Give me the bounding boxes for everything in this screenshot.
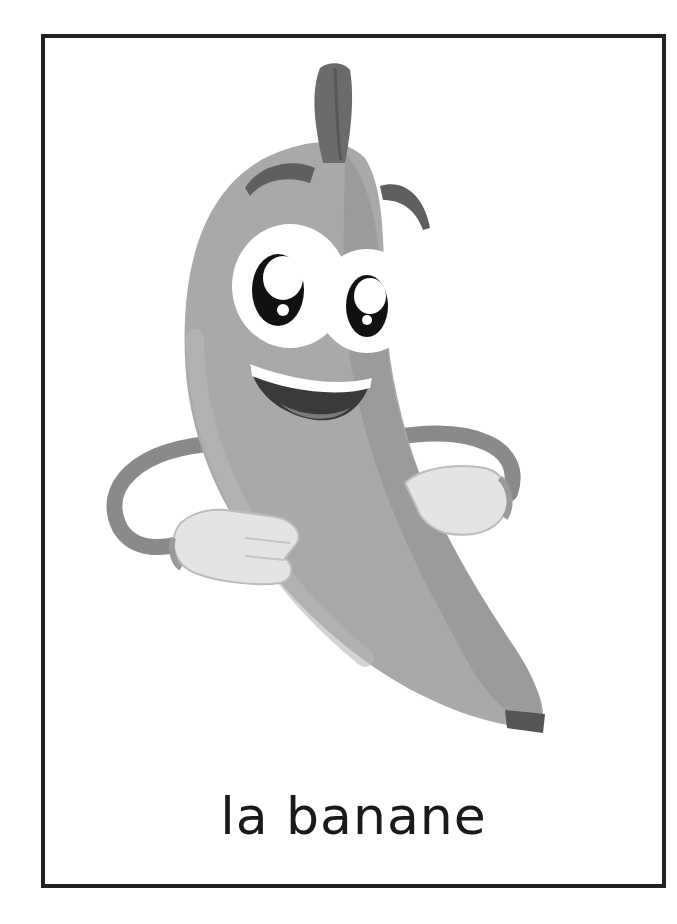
banana-character-icon	[45, 38, 662, 758]
word-label: la banane	[45, 786, 662, 846]
right-eyebrow	[380, 184, 430, 230]
left-glove	[172, 510, 299, 584]
stem	[314, 63, 352, 163]
banana-tip	[505, 710, 545, 733]
flashcard: la banane	[41, 34, 666, 888]
